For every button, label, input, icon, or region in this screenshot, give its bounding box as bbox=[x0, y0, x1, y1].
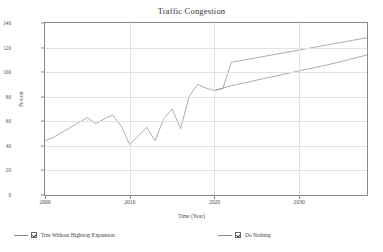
gridline-horizontal bbox=[45, 121, 367, 122]
legend-item-label: Trns Without Highway Expansion bbox=[41, 232, 115, 238]
legend-line-icon bbox=[218, 235, 232, 236]
gridline-horizontal bbox=[45, 97, 367, 98]
legend-item-1[interactable]: Do Nothing bbox=[218, 232, 271, 238]
legend-item-0[interactable]: Trns Without Highway Expansion bbox=[14, 232, 115, 238]
y-axis-tick-mark bbox=[41, 195, 44, 196]
gridline-horizontal bbox=[45, 48, 367, 49]
chart-title: Traffic Congestion bbox=[0, 6, 383, 16]
chart-root: Traffic Congestion 020406080100120140200… bbox=[0, 0, 383, 252]
legend-line-icon bbox=[14, 235, 28, 236]
x-axis-tick-mark bbox=[299, 196, 300, 199]
plot-area bbox=[44, 22, 368, 196]
x-axis-tick-mark bbox=[130, 196, 131, 199]
y-axis-tick-mark bbox=[41, 96, 44, 97]
y-axis-tick-label: 0 bbox=[0, 192, 11, 198]
legend-item-label: Do Nothing bbox=[245, 232, 271, 238]
y-axis-tick-mark bbox=[41, 23, 44, 24]
y-axis-tick-label: 40 bbox=[0, 143, 11, 149]
y-axis-tick-label: 120 bbox=[0, 45, 11, 51]
x-axis-tick-mark bbox=[45, 196, 46, 199]
x-axis-tick-mark bbox=[214, 196, 215, 199]
x-axis-tick-label: 2000 bbox=[39, 199, 50, 205]
chart-legend: Trns Without Highway Expansion Do Nothin… bbox=[0, 231, 383, 247]
gridline-vertical bbox=[130, 23, 131, 195]
y-axis-tick-label: 140 bbox=[0, 20, 11, 26]
y-axis-tick-mark bbox=[41, 145, 44, 146]
y-axis-tick-mark bbox=[41, 121, 44, 122]
x-axis-tick-label: 2020 bbox=[209, 199, 220, 205]
gridline-vertical bbox=[214, 23, 215, 195]
gridline-vertical bbox=[299, 23, 300, 195]
y-axis-tick-label: 60 bbox=[0, 118, 11, 124]
y-axis-tick-mark bbox=[41, 170, 44, 171]
y-axis-label: Percent bbox=[18, 69, 24, 129]
series-paths bbox=[45, 23, 367, 195]
series-line-0 bbox=[45, 38, 367, 145]
gridline-horizontal bbox=[45, 170, 367, 171]
y-axis-tick-label: 80 bbox=[0, 94, 11, 100]
y-axis-tick-mark bbox=[41, 72, 44, 73]
y-axis-tick-label: 20 bbox=[0, 167, 11, 173]
y-axis-tick-mark bbox=[41, 47, 44, 48]
x-axis-tick-label: 2030 bbox=[294, 199, 305, 205]
x-axis-label: Time (Year) bbox=[0, 213, 383, 219]
checkbox-checked-icon[interactable] bbox=[31, 232, 37, 238]
checkbox-checked-icon[interactable] bbox=[235, 232, 241, 238]
x-axis-tick-label: 2010 bbox=[124, 199, 135, 205]
y-axis-tick-label: 100 bbox=[0, 69, 11, 75]
gridline-horizontal bbox=[45, 146, 367, 147]
gridline-horizontal bbox=[45, 72, 367, 73]
